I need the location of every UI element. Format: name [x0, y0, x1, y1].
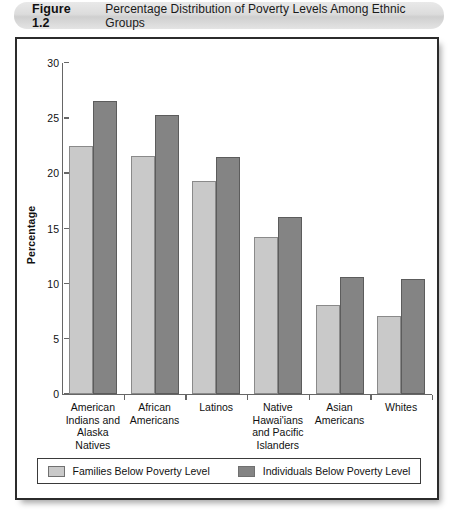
y-axis-tick: 0 — [17, 388, 69, 400]
y-axis-tick-mark — [64, 62, 69, 63]
bar-families — [377, 316, 401, 394]
bar-individuals — [278, 217, 302, 394]
x-axis-category-label: Whites — [364, 401, 438, 414]
bar-families — [192, 181, 216, 394]
legend-swatch-individuals — [238, 466, 255, 477]
figure-number: Figure 1.2 — [32, 2, 91, 30]
y-axis-tick-label: 5 — [53, 333, 59, 345]
x-axis-tick-mark — [370, 395, 371, 400]
bar-individuals — [93, 101, 117, 394]
legend-item: Families Below Poverty Level — [48, 465, 210, 477]
x-axis-tick-mark — [309, 395, 310, 400]
legend-label: Individuals Below Poverty Level — [263, 465, 411, 477]
x-axis-tick-mark — [124, 395, 125, 400]
x-axis-tick-mark — [185, 395, 186, 400]
figure-panel: Percentage 051015202530 AmericanIndians … — [15, 37, 439, 500]
y-axis-tick: 20 — [17, 167, 69, 179]
bar-chart: Percentage 051015202530 AmericanIndians … — [17, 39, 441, 502]
y-axis-tick: 10 — [17, 278, 69, 290]
bar-families — [69, 146, 93, 394]
chart-legend: Families Below Poverty LevelIndividuals … — [37, 458, 421, 484]
y-axis-tick-label: 20 — [47, 167, 59, 179]
y-axis-tick-label: 15 — [47, 223, 59, 235]
figure-title: Percentage Distribution of Poverty Level… — [105, 2, 444, 30]
legend-label: Families Below Poverty Level — [73, 465, 210, 477]
x-axis-tick-mark — [432, 395, 433, 400]
legend-item: Individuals Below Poverty Level — [238, 465, 411, 477]
figure-caption-bar: Figure 1.2 Percentage Distribution of Po… — [14, 2, 444, 29]
bar-individuals — [340, 277, 364, 394]
legend-swatch-families — [48, 466, 65, 477]
y-axis-tick: 15 — [17, 223, 69, 235]
x-axis-tick-mark — [247, 395, 248, 400]
bar-families — [316, 305, 340, 394]
y-axis-tick: 5 — [17, 333, 69, 345]
y-axis-tick-label: 25 — [47, 112, 59, 124]
bar-individuals — [216, 157, 240, 394]
y-axis-tick: 30 — [17, 57, 69, 69]
bar-families — [131, 156, 155, 394]
bar-individuals — [401, 279, 425, 394]
y-axis-tick-label: 0 — [53, 388, 59, 400]
y-axis-tick-mark — [64, 117, 69, 118]
y-axis-tick: 25 — [17, 112, 69, 124]
y-axis-title: Percentage — [25, 195, 37, 275]
y-axis-tick-label: 10 — [47, 278, 59, 290]
bar-families — [254, 237, 278, 394]
bar-individuals — [155, 115, 179, 394]
y-axis-tick-label: 30 — [47, 57, 59, 69]
